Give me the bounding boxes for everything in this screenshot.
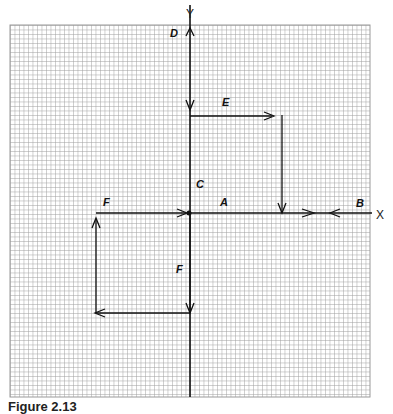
label-e: E — [222, 96, 230, 108]
label-f-side: F — [176, 263, 183, 275]
label-b: B — [356, 197, 364, 209]
label-c: C — [196, 178, 205, 190]
label-d: D — [170, 27, 178, 39]
figure-caption: Figure 2.13 — [8, 399, 77, 414]
x-axis-label: X — [376, 208, 384, 222]
label-a: A — [219, 196, 228, 208]
label-f-top: F — [103, 196, 110, 208]
y-axis-label: Y — [186, 7, 194, 21]
